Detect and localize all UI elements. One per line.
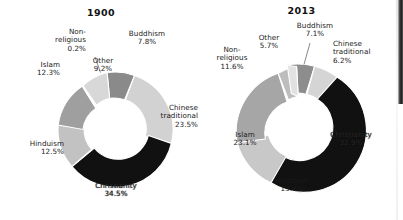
slice-label-christianity-2013: Christianity 32.9% — [318, 131, 384, 148]
slice-label-hinduism-2013: Hinduism 13.4% — [262, 177, 322, 194]
slice-label-buddhism-2013: Buddhism 7.1% — [286, 22, 344, 39]
slice-label-christianity-1900: Christianity 34.5% — [85, 182, 147, 199]
slice-label-other-2013: Other 5.7% — [248, 34, 290, 51]
donut-chart-1900: 1900 Buddhism 7.8% Chinese traditional 2… — [0, 0, 202, 220]
donut-chart-2013: 2013 Buddhism 7.1% Chinese traditional 6… — [200, 0, 403, 220]
figure-two-donut-charts: 1900 Buddhism 7.8% Chinese traditional 2… — [0, 0, 403, 220]
leader-line-buddhism-2013 — [304, 43, 310, 65]
slice-label-islam-1900: Islam 12.3% — [10, 61, 60, 78]
page-edge-artifact-dark — [398, 0, 403, 104]
slice-label-chinese-traditional-1900: Chinese traditional 23.5% — [132, 104, 198, 129]
slice-label-hinduism-1900: Hinduism 12.5% — [4, 140, 64, 157]
slice-label-other-1900: Other 9.2% — [82, 57, 124, 74]
slice-label-non-religious-1900: Non- religious 0.2% — [36, 28, 86, 53]
slice-label-buddhism-1900: Buddhism 7.8% — [114, 30, 180, 47]
slice-label-chinese-traditional-2013: Chinese traditional 6.2% — [333, 40, 395, 65]
slice-label-islam-2013: Islam 23.1% — [222, 131, 268, 148]
